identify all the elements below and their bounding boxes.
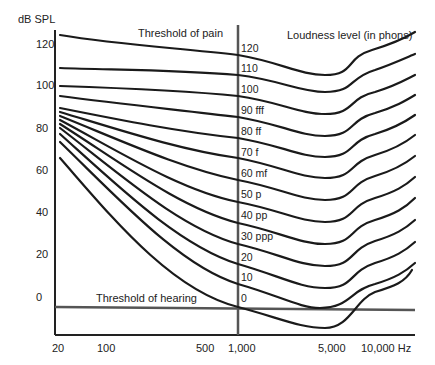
x-tick: 100 <box>97 342 115 354</box>
x-tick: 500 <box>196 342 214 354</box>
contour-label: 70 f <box>241 146 259 158</box>
y-tick: 40 <box>36 206 48 218</box>
contour-label: 0 <box>241 292 247 304</box>
contour-label: 110 <box>241 62 258 74</box>
threshold-of-pain-label: Threshold of pain <box>138 27 223 39</box>
y-tick: 120 <box>36 38 54 50</box>
loudness-level-label: Loudness level (in phons) <box>287 29 412 41</box>
equal-loudness-chart: dB SPL 120 100 80 60 40 20 0 20 100 500 … <box>0 0 435 365</box>
contour-label: 100 <box>241 83 259 95</box>
threshold-of-hearing-line <box>55 307 415 310</box>
y-tick: 20 <box>36 248 48 260</box>
x-tick: 10,000 Hz <box>361 342 411 354</box>
y-tick: 100 <box>36 79 54 91</box>
contour-label: 60 mf <box>241 167 267 179</box>
y-axis-label: dB SPL <box>18 13 55 25</box>
x-tick: 1,000 <box>228 342 256 354</box>
y-tick: 0 <box>36 291 42 303</box>
contour-label: 10 <box>241 271 253 283</box>
x-tick: 20 <box>52 342 64 354</box>
contour-label: 50 p <box>241 188 262 200</box>
y-tick: 80 <box>36 122 48 134</box>
x-tick: 5,000 <box>318 342 346 354</box>
contour-label: 20 <box>241 251 253 263</box>
contour-label: 120 <box>241 42 259 54</box>
contour-label: 90 fff <box>241 104 264 116</box>
contour-label: 80 ff <box>241 125 261 137</box>
contour-label: 40 pp <box>241 209 267 221</box>
threshold-of-hearing-label: Threshold of hearing <box>96 292 197 304</box>
y-tick: 60 <box>36 164 48 176</box>
